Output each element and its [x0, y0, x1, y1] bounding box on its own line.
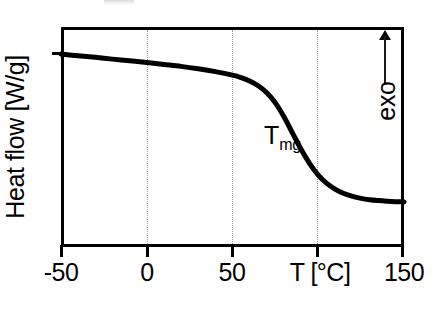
- x-tick-label-0: 0: [140, 258, 153, 286]
- gridline-50c: [232, 30, 233, 250]
- tmg-subscript: mg: [279, 136, 301, 153]
- gridline-0c: [147, 30, 148, 250]
- exo-label: exo: [373, 66, 399, 136]
- plot-area: [61, 27, 404, 247]
- tmg-annotation: Tmg: [264, 122, 301, 158]
- x-axis-tick-0: [146, 245, 149, 257]
- x-tick-label-150: 150: [384, 258, 424, 286]
- exo-annotation: exo: [371, 30, 401, 135]
- x-axis-tick--50: [60, 245, 63, 257]
- gridline-100c: [317, 30, 318, 250]
- x-axis-tick-150: [401, 245, 404, 257]
- x-axis-tick-50: [231, 245, 234, 257]
- y-axis-title: Heat flow [W/g]: [0, 27, 30, 247]
- x-tick-label-50: 50: [219, 258, 246, 286]
- dsc-thermogram-figure: Heat flow [W/g] -50 0 50 T [°C] 150 exo …: [0, 0, 433, 311]
- x-axis-tick-100: [316, 245, 319, 257]
- tmg-symbol: T: [264, 121, 279, 149]
- x-axis-title: T [°C]: [290, 258, 351, 286]
- scan-artifact: [104, 0, 134, 5]
- x-tick-label--50: -50: [44, 258, 79, 286]
